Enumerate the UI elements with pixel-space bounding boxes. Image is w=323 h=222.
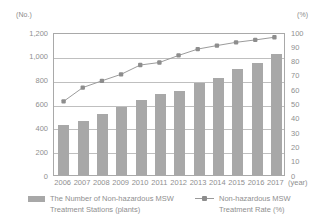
line-path	[64, 37, 275, 101]
right-axis-tick-label: 80	[291, 57, 321, 66]
legend-item-bar-text: The Number of Non-hazardous MSW Treatmen…	[50, 193, 174, 215]
legend-item-line-line2: Treatment Rate (%)	[219, 204, 291, 215]
x-axis-tick-label: 2015	[228, 178, 245, 187]
line-marker	[234, 40, 238, 44]
line-marker	[61, 99, 65, 103]
right-axis-tick-label: 90	[291, 43, 321, 52]
line-marker	[138, 63, 142, 67]
legend-item-bar: The Number of Non-hazardous MSW Treatmen…	[28, 193, 174, 215]
line-marker	[119, 72, 123, 76]
line-marker	[253, 38, 257, 42]
right-axis-tick-label: 50	[291, 100, 321, 109]
x-axis-tick-label: 2007	[74, 178, 91, 187]
right-axis-tick-label: 20	[291, 143, 321, 152]
left-axis-tick-label: 1,200	[2, 29, 48, 38]
line-marker	[176, 53, 180, 57]
x-axis-tick-label: 2014	[209, 178, 226, 187]
line-marker	[196, 47, 200, 51]
x-axis-tick-label: 2013	[190, 178, 207, 187]
legend-item-line-line1: Non-hazardous MSW	[219, 193, 291, 204]
legend-item-line-text: Non-hazardous MSW Treatment Rate (%)	[219, 193, 291, 215]
left-axis-tick-label: 0	[2, 172, 48, 181]
line-marker	[81, 85, 85, 89]
line-marker-swatch-icon	[195, 194, 214, 203]
x-axis-tick-label: 2011	[151, 178, 167, 187]
left-axis-tick-label: 1,000	[2, 52, 48, 61]
right-axis-tick-label: 30	[291, 129, 321, 138]
line-swatch-marker	[202, 196, 207, 201]
chart-figure: (No.) (%) 1,2001,0008006004002000 100908…	[0, 0, 323, 222]
left-axis-unit-label: (No.)	[16, 11, 32, 18]
right-axis-tick-label: 100	[291, 29, 321, 38]
left-axis-tick-label: 800	[2, 76, 48, 85]
line-marker	[215, 43, 219, 47]
right-axis-tick-label: 10	[291, 157, 321, 166]
left-axis-tick-label: 400	[2, 124, 48, 133]
x-axis-tick-label: 2017	[267, 178, 284, 187]
line-marker	[100, 79, 104, 83]
x-axis-tick-label: 2016	[248, 178, 265, 187]
line-marker	[157, 60, 161, 64]
x-axis-unit-label: (year)	[288, 178, 308, 187]
chart-legend: The Number of Non-hazardous MSW Treatmen…	[28, 193, 313, 219]
right-axis-tick-label: 60	[291, 86, 321, 95]
left-axis-tick-label: 600	[2, 100, 48, 109]
plot-area	[53, 33, 285, 176]
right-axis-tick-label: 40	[291, 114, 321, 123]
legend-item-line: Non-hazardous MSW Treatment Rate (%)	[195, 193, 291, 215]
line-series	[54, 34, 284, 175]
x-axis-tick-label: 2009	[112, 178, 129, 187]
legend-item-bar-line2: Treatment Stations (plants)	[50, 204, 174, 215]
right-axis-unit-label: (%)	[297, 11, 308, 18]
bar-swatch-icon	[28, 196, 45, 202]
x-axis-tick-label: 2012	[170, 178, 187, 187]
x-axis-tick-label: 2010	[132, 178, 149, 187]
x-axis-tick-label: 2008	[93, 178, 110, 187]
line-marker	[272, 35, 276, 39]
right-axis-tick-label: 70	[291, 71, 321, 80]
legend-item-bar-line1: The Number of Non-hazardous MSW	[50, 193, 174, 204]
x-axis-tick-label: 2006	[54, 178, 71, 187]
x-axis-ticks: 2006200720082009201020112012201320142015…	[53, 178, 285, 190]
left-axis-tick-label: 200	[2, 148, 48, 157]
